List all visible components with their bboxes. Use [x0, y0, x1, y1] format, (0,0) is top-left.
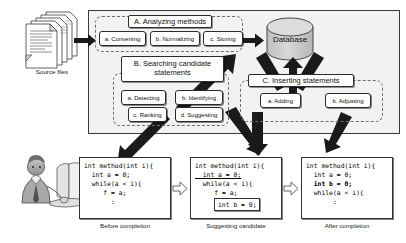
- code-panel-after-completion: int method(int i){ int a = 0; int b = 0;…: [301, 157, 393, 219]
- step-a-converting[interactable]: a. Converting: [99, 31, 146, 46]
- database-label: Database: [267, 35, 313, 44]
- step-c-ranking[interactable]: c. Ranking: [128, 107, 167, 122]
- code-line: f = a;: [195, 189, 278, 198]
- arrow-before-to-suggesting: [173, 182, 187, 195]
- step-b-adjusting[interactable]: b. Adjusting: [325, 93, 371, 108]
- arrow-storing-to-database: [241, 34, 264, 48]
- code-line: int method(int i){: [195, 162, 278, 171]
- caption-suggesting-candidate: Suggesting candidate: [190, 222, 282, 229]
- group-b-heading-line2: statements: [154, 69, 191, 78]
- document-stack-icon: [26, 12, 77, 68]
- step-b-normalizing[interactable]: b. Normalizing: [150, 31, 200, 46]
- step-d-suggesting[interactable]: d. Suggesting: [175, 107, 223, 122]
- code-line: while(a < i){: [306, 189, 389, 198]
- code-line: :: [84, 198, 167, 207]
- code-line: f = a;: [84, 189, 167, 198]
- group-b-heading: B. Searching candidate statements: [121, 56, 224, 82]
- caption-before-completion: Before completion: [79, 222, 171, 229]
- code-line: int method(int i){: [84, 162, 167, 171]
- code-line: int a = 0;: [306, 171, 389, 180]
- caption-after-completion: After completion: [301, 222, 393, 229]
- source-files-label: Source files: [22, 68, 82, 75]
- code-line: int a = 0;: [84, 171, 167, 180]
- step-a-adding[interactable]: a. Adding: [260, 93, 301, 108]
- group-c-heading: C. Inserting statements: [248, 74, 354, 87]
- suggestion-callout[interactable]: int b = 0;: [214, 198, 260, 211]
- code-line: :: [306, 198, 389, 207]
- code-line: int a = 0;: [195, 171, 278, 180]
- code-panel-before-completion: int method(int i){ int a = 0; while(a < …: [79, 157, 171, 219]
- group-a-heading: A. Analyzing methods: [128, 15, 212, 28]
- arrow-suggesting-to-after: [284, 182, 298, 195]
- code-line: int method(int i){: [306, 162, 389, 171]
- code-line: while(a < i){: [84, 180, 167, 189]
- code-line: while(a < i){: [195, 180, 278, 189]
- code-line: int b = 0;: [306, 180, 389, 189]
- step-b-identifying[interactable]: b. Identifying: [175, 90, 223, 105]
- diagram-canvas: Source files Database A. Analyzing metho…: [0, 0, 406, 243]
- step-a-detecting[interactable]: a. Detecting: [121, 90, 166, 105]
- step-c-storing[interactable]: c. Storing: [203, 31, 243, 46]
- person-at-computer-icon: [22, 155, 86, 207]
